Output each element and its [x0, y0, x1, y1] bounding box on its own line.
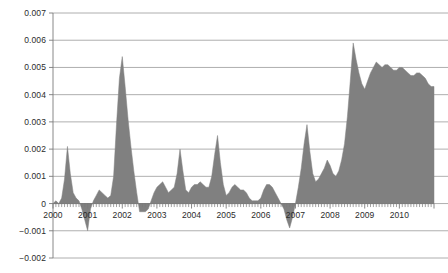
x-axis-tick-label: 2009	[348, 210, 382, 220]
area-chart-plot	[0, 0, 448, 273]
x-axis-tick-label: 2003	[140, 210, 174, 220]
y-axis-tick-label: 0.005	[0, 62, 46, 72]
x-axis-tick-label: 2005	[209, 210, 243, 220]
y-axis-tick-label: 0.003	[0, 117, 46, 127]
x-axis-tick-label: 2004	[175, 210, 209, 220]
y-axis-tick-label: 0.007	[0, 8, 46, 18]
chart-container: 0.0070.0060.0050.0040.0030.0020.0010−0.0…	[0, 0, 448, 273]
y-axis-tick-label: 0.001	[0, 171, 46, 181]
series-area	[53, 43, 434, 231]
x-axis-tick-label: 2010	[382, 210, 416, 220]
x-axis-tick-label: 2008	[313, 210, 347, 220]
x-axis-tick-label: 2006	[244, 210, 278, 220]
y-axis-tick-label: −0.001	[0, 226, 46, 236]
x-axis-tick-label: 2002	[105, 210, 139, 220]
y-axis-tick-label: 0.002	[0, 144, 46, 154]
y-axis-tick-label: 0.004	[0, 90, 46, 100]
y-axis-tick-label: 0.006	[0, 35, 46, 45]
x-axis-tick-label: 2007	[278, 210, 312, 220]
x-axis-tick-label: 2001	[71, 210, 105, 220]
y-axis-tick-label: −0.002	[0, 253, 46, 263]
y-axis-tick-label: 0	[0, 199, 46, 209]
x-axis-tick-label: 2000	[36, 210, 70, 220]
